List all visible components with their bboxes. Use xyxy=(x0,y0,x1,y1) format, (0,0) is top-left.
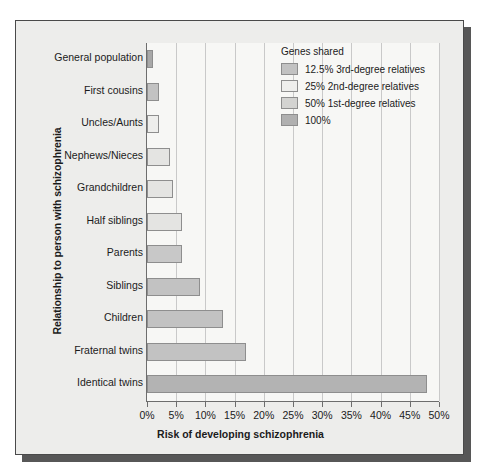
bar-row: Identical twins xyxy=(147,368,439,401)
bar xyxy=(147,83,159,101)
category-label: Nephews/Nieces xyxy=(0,149,143,161)
bar-row: Children xyxy=(147,303,439,336)
tick-mark xyxy=(322,402,323,407)
legend-swatch xyxy=(281,63,298,75)
tick-mark xyxy=(351,402,352,407)
legend-label: 50% 1st-degree relatives xyxy=(305,98,416,109)
bar xyxy=(147,115,159,133)
category-label: Uncles/Aunts xyxy=(0,116,143,128)
legend-swatch xyxy=(281,97,298,109)
bar xyxy=(147,245,182,263)
legend-item: 50% 1st-degree relatives xyxy=(281,97,456,109)
tick-mark xyxy=(235,402,236,407)
legend-items: 12.5% 3rd-degree relatives25% 2nd-degree… xyxy=(281,63,456,126)
tick-mark xyxy=(293,402,294,407)
bar xyxy=(147,343,246,361)
tick-mark xyxy=(205,402,206,407)
category-label: General population xyxy=(0,51,143,63)
category-label: Children xyxy=(0,311,143,323)
tick-mark xyxy=(264,402,265,407)
bar-row: Grandchildren xyxy=(147,173,439,206)
chart-panel: Relationship to person with schizophreni… xyxy=(15,20,464,455)
category-label: Siblings xyxy=(0,279,143,291)
bar xyxy=(147,148,170,166)
bar xyxy=(147,180,173,198)
y-axis-title: Relationship to person with schizophreni… xyxy=(51,86,63,376)
legend-swatch xyxy=(281,80,298,92)
category-label: First cousins xyxy=(0,84,143,96)
legend: Genes shared 12.5% 3rd-degree relatives2… xyxy=(281,46,456,131)
bar xyxy=(147,278,200,296)
legend-title: Genes shared xyxy=(281,46,456,57)
legend-swatch xyxy=(281,114,298,126)
bar xyxy=(147,375,427,393)
tick-mark xyxy=(381,402,382,407)
tick-label: 50% xyxy=(422,409,456,421)
category-label: Parents xyxy=(0,246,143,258)
bar-row: Nephews/Nieces xyxy=(147,141,439,174)
bar-row: Half siblings xyxy=(147,206,439,239)
tick-mark xyxy=(439,402,440,407)
bar xyxy=(147,310,223,328)
x-axis-title: Risk of developing schizophrenia xyxy=(16,428,465,440)
bar-row: Siblings xyxy=(147,271,439,304)
legend-item: 25% 2nd-degree relatives xyxy=(281,80,456,92)
category-label: Identical twins xyxy=(0,376,143,388)
legend-label: 12.5% 3rd-degree relatives xyxy=(305,64,425,75)
legend-label: 25% 2nd-degree relatives xyxy=(305,81,419,92)
bar-row: Fraternal twins xyxy=(147,336,439,369)
tick-mark xyxy=(147,402,148,407)
legend-item: 100% xyxy=(281,114,456,126)
bar xyxy=(147,213,182,231)
tick-mark xyxy=(410,402,411,407)
category-label: Half siblings xyxy=(0,214,143,226)
legend-label: 100% xyxy=(305,115,331,126)
bar-row: Parents xyxy=(147,238,439,271)
category-label: Fraternal twins xyxy=(0,344,143,356)
bar xyxy=(147,50,153,68)
figure-root: Relationship to person with schizophreni… xyxy=(0,0,481,469)
legend-item: 12.5% 3rd-degree relatives xyxy=(281,63,456,75)
tick-mark xyxy=(176,402,177,407)
category-label: Grandchildren xyxy=(0,181,143,193)
